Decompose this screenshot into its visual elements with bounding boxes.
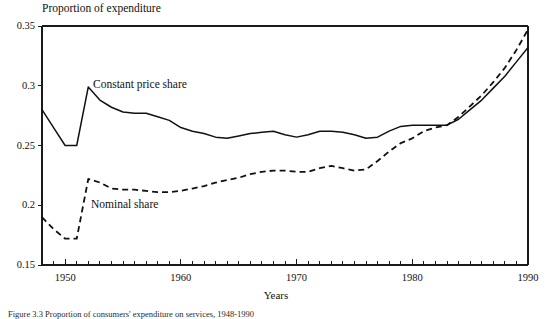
x-axis-tick-label: 1960 <box>161 273 201 284</box>
figure-caption: Figure 3.3 Proportion of consumers' expe… <box>8 309 548 319</box>
x-axis-label: Years <box>0 290 552 301</box>
series-label-constant-price-share: Constant price share <box>93 79 187 91</box>
chart-title: Proportion of expenditure <box>42 3 161 15</box>
x-axis-tick-label: 1980 <box>392 273 432 284</box>
y-axis-tick-label: 0.35 <box>0 21 35 32</box>
axis-ticks <box>38 26 528 265</box>
axes-group <box>42 26 528 265</box>
y-axis-tick-label: 0.2 <box>0 200 35 211</box>
y-axis-tick-label: 0.3 <box>0 81 35 92</box>
y-axis-tick-label: 0.25 <box>0 141 35 152</box>
x-axis-tick-label: 1970 <box>277 273 317 284</box>
y-axis-tick-label: 0.15 <box>0 260 35 271</box>
series-line-constant-price-share <box>42 48 528 146</box>
series-label-nominal-share: Nominal share <box>91 199 158 211</box>
x-axis-tick-label: 1990 <box>508 273 548 284</box>
x-axis-tick-label: 1950 <box>45 273 85 284</box>
